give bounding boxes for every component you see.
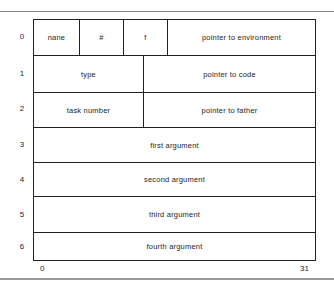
word-row-1: type pointer to code (34, 56, 315, 93)
bottom-rule (0, 278, 334, 280)
word-row-3: first argument (34, 128, 315, 163)
field-second-argument: second argument (34, 163, 315, 196)
word-row-5: third argument (34, 197, 315, 233)
field-type: type (34, 56, 144, 92)
word-row-2: task number pointer to father (34, 93, 315, 128)
row-index-3: 3 (16, 140, 28, 150)
field-fourth-argument: fourth argument (34, 233, 315, 260)
field-first-argument: first argument (34, 128, 315, 162)
row-index-5: 5 (16, 210, 28, 220)
field-name: nane (34, 20, 80, 55)
row-index-6: 6 (16, 242, 28, 252)
field-pointer-to-environment: pointer to environment (168, 20, 315, 55)
row-index-2: 2 (16, 104, 28, 114)
field-f: f (124, 20, 168, 55)
field-task-number: task number (34, 93, 144, 127)
field-pointer-to-code: pointer to code (144, 56, 315, 92)
row-index-1: 1 (16, 69, 28, 79)
word-row-6: fourth argument (34, 233, 315, 260)
word-layout-box: nane # f pointer to environment type poi… (33, 19, 316, 261)
word-row-0: nane # f pointer to environment (34, 20, 315, 56)
bit-start-label: 0 (40, 264, 44, 273)
field-pointer-to-father: pointer to father (144, 93, 315, 127)
field-third-argument: third argument (34, 197, 315, 232)
bit-end-label: 31 (300, 264, 309, 273)
field-number-sign: # (80, 20, 124, 55)
top-rule (0, 11, 334, 12)
word-row-4: second argument (34, 163, 315, 197)
row-index-4: 4 (16, 175, 28, 185)
row-index-0: 0 (16, 32, 28, 42)
